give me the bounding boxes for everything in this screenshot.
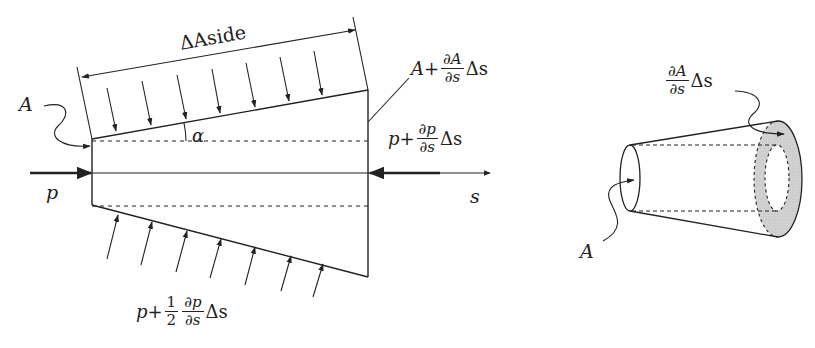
bottom-pressure-arrows — [107, 215, 323, 297]
angle-label: α — [192, 125, 204, 146]
diagram-canvas — [0, 0, 815, 348]
angle-arc — [184, 123, 186, 141]
cone-element — [603, 91, 802, 241]
axis-label: s — [470, 185, 480, 207]
inlet-ellipse — [620, 145, 640, 211]
top-pressure-arrows — [107, 51, 322, 131]
inlet-area-label: A — [19, 93, 33, 115]
outlet-area-label: A+ ∂A ∂s Δs — [411, 52, 488, 85]
inlet-area-leader — [44, 105, 90, 147]
dimension-extension-left — [77, 67, 92, 139]
cone-bottom-edge — [630, 211, 778, 237]
side-pressure-label: p+ 1 2 ∂p ∂s Δs — [136, 295, 228, 328]
cone-inlet-area-label: A — [580, 240, 594, 262]
dimension-extension-right — [353, 17, 368, 90]
outlet-pressure-label: p+ ∂p ∂s Δs — [388, 122, 462, 155]
inlet-projection-ellipse — [765, 145, 789, 211]
cone-area-change-label: ∂A ∂s Δs — [664, 64, 713, 97]
outlet-area-leader — [368, 78, 409, 122]
cone-top-edge — [630, 121, 778, 145]
inlet-pressure-label: p — [46, 181, 58, 203]
bottom-wall — [92, 205, 368, 277]
top-wall — [92, 90, 368, 139]
